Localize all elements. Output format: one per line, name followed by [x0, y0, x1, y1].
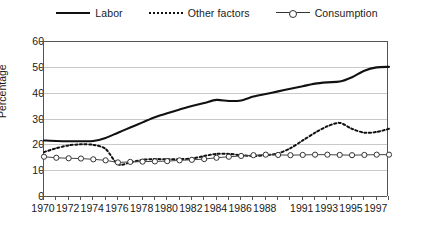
- x-tick-label-1978: 1978: [130, 202, 153, 214]
- data-point-consumption: [152, 159, 157, 164]
- x-tick-label-1997: 1997: [364, 202, 387, 214]
- x-tick-label-1995: 1995: [339, 202, 362, 214]
- data-point-consumption: [165, 159, 170, 164]
- data-point-consumption: [312, 152, 317, 157]
- data-point-consumption: [115, 160, 120, 165]
- x-tick-label-1974: 1974: [81, 202, 104, 214]
- data-point-consumption: [103, 158, 108, 163]
- data-point-consumption: [386, 152, 391, 157]
- data-point-consumption: [362, 152, 367, 157]
- x-tick-label-1993: 1993: [315, 202, 338, 214]
- data-point-consumption: [128, 159, 133, 164]
- legend-label-other-factors: Other factors: [188, 7, 250, 19]
- data-point-consumption: [374, 152, 379, 157]
- data-point-consumption: [349, 153, 354, 158]
- data-point-consumption: [325, 152, 330, 157]
- series-layer: [44, 41, 389, 196]
- data-point-consumption: [251, 153, 256, 158]
- data-point-consumption: [140, 159, 145, 164]
- legend-label-labor: Labor: [95, 7, 122, 19]
- data-point-consumption: [300, 152, 305, 157]
- data-point-consumption: [263, 152, 268, 157]
- x-tick-label-1976: 1976: [105, 202, 128, 214]
- legend-label-consumption: Consumption: [315, 7, 378, 19]
- legend-swatch-dotted-line-icon: [149, 8, 183, 18]
- data-point-consumption: [177, 158, 182, 163]
- gridline-0: [44, 196, 387, 197]
- data-point-consumption: [66, 156, 71, 161]
- x-tick-label-1970: 1970: [31, 202, 54, 214]
- data-point-consumption: [54, 155, 59, 160]
- x-tick-label-1988: 1988: [253, 202, 276, 214]
- x-tick-label-1980: 1980: [155, 202, 178, 214]
- data-point-consumption: [239, 153, 244, 158]
- legend-swatch-solid-line-icon: [56, 8, 90, 18]
- y-axis-title: Percentage: [0, 64, 8, 118]
- data-point-consumption: [189, 157, 194, 162]
- legend-item-labor: Labor: [56, 7, 122, 19]
- data-point-consumption: [288, 153, 293, 158]
- data-point-consumption: [91, 157, 96, 162]
- x-tick-label-1984: 1984: [204, 202, 227, 214]
- x-tick-mark-1998: [388, 196, 389, 200]
- data-point-consumption: [78, 156, 83, 161]
- legend-swatch-circle-marker-line-icon: [276, 8, 310, 18]
- x-tick-label-1986: 1986: [228, 202, 251, 214]
- legend-item-consumption: Consumption: [276, 7, 378, 19]
- legend-item-other-factors: Other factors: [149, 7, 250, 19]
- data-point-consumption: [337, 152, 342, 157]
- series-line-labor: [44, 67, 389, 141]
- data-point-consumption: [276, 152, 281, 157]
- chart-legend: Labor Other factors Consumption: [0, 4, 434, 22]
- data-point-consumption: [214, 155, 219, 160]
- data-point-consumption: [202, 156, 207, 161]
- data-point-consumption: [41, 154, 46, 159]
- plot-area: [43, 41, 388, 196]
- data-point-consumption: [226, 154, 231, 159]
- x-tick-label-1991: 1991: [290, 202, 313, 214]
- x-tick-label-1972: 1972: [56, 202, 79, 214]
- chart-container: Labor Other factors Consumption Percenta…: [0, 0, 434, 234]
- x-tick-label-1982: 1982: [179, 202, 202, 214]
